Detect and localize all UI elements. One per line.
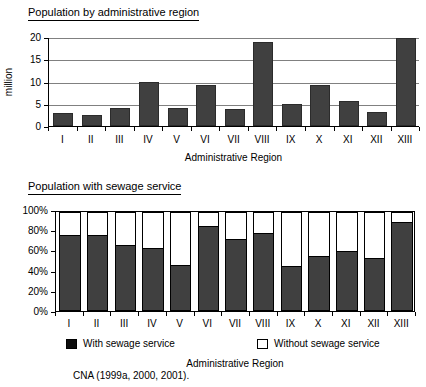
gridline bbox=[49, 60, 419, 61]
x-tick-mark bbox=[138, 312, 139, 316]
stacked-bar-region-XIII bbox=[391, 212, 413, 311]
x-tick-mark bbox=[249, 312, 250, 316]
stacked-bar-region-V bbox=[170, 212, 192, 311]
x-tick-label-XII: XII bbox=[370, 134, 382, 145]
y-tick-label: 15 bbox=[19, 55, 41, 65]
x-tick-label-VII: VII bbox=[227, 134, 239, 145]
chart-population-with-sewage: Population with sewage service 100% 80% … bbox=[0, 178, 426, 387]
bar-region-VIII bbox=[253, 42, 273, 126]
x-tick-mark bbox=[83, 312, 84, 316]
segment-with-sewage bbox=[337, 251, 357, 310]
stacked-bar-region-I bbox=[59, 212, 81, 311]
y-tick-label: 60% bbox=[8, 246, 48, 256]
bar-region-IV bbox=[139, 82, 159, 127]
x-tick-label-X: X bbox=[315, 318, 322, 329]
legend-item-without-sewage: Without sewage service bbox=[257, 338, 380, 350]
y-tick-label: 10 bbox=[19, 78, 41, 88]
x-tick-label-VI: VI bbox=[200, 134, 209, 145]
x-tick-mark bbox=[334, 127, 335, 131]
segment-with-sewage bbox=[392, 222, 412, 310]
x-tick-mark bbox=[305, 127, 306, 131]
x-tick-label-XIII: XIII bbox=[397, 134, 412, 145]
legend-label-with-sewage: With sewage service bbox=[83, 338, 175, 350]
x-tick-mark bbox=[77, 127, 78, 131]
bar-region-VI bbox=[196, 85, 216, 126]
segment-with-sewage bbox=[60, 235, 80, 310]
stacked-bar-region-VII bbox=[225, 212, 247, 311]
x-tick-label-II: II bbox=[94, 318, 100, 329]
x-tick-mark bbox=[166, 312, 167, 316]
segment-with-sewage bbox=[282, 266, 302, 310]
x-tick-label-V: V bbox=[173, 134, 180, 145]
y-axis-label-million: million bbox=[4, 62, 14, 102]
y-tick-label: 20 bbox=[19, 33, 41, 43]
x-tick-mark bbox=[332, 312, 333, 316]
x-tick-label-X: X bbox=[316, 134, 323, 145]
x-tick-mark bbox=[304, 312, 305, 316]
bar-region-VII bbox=[225, 109, 245, 126]
bar-region-XIII bbox=[396, 38, 416, 126]
x-tick-label-III: III bbox=[115, 134, 123, 145]
stacked-bar-region-II bbox=[87, 212, 109, 311]
chart-legend: With sewage service Without sewage servi… bbox=[0, 338, 426, 354]
x-tick-label-VII: VII bbox=[229, 318, 241, 329]
x-tick-mark bbox=[419, 127, 420, 131]
segment-with-sewage bbox=[143, 248, 163, 310]
bar-region-I bbox=[53, 113, 73, 126]
y-tick-label: 20% bbox=[8, 287, 48, 297]
stacked-bar-region-IX bbox=[281, 212, 303, 311]
bar-region-II bbox=[82, 115, 102, 126]
legend-label-without-sewage: Without sewage service bbox=[274, 338, 380, 350]
segment-with-sewage bbox=[254, 233, 274, 310]
bar-region-X bbox=[310, 85, 330, 126]
chart-title-population: Population by administrative region bbox=[28, 6, 199, 21]
gridline bbox=[49, 83, 419, 84]
x-tick-mark bbox=[415, 312, 416, 316]
gridline bbox=[49, 38, 419, 39]
segment-with-sewage bbox=[365, 258, 385, 310]
legend-swatch-filled-icon bbox=[66, 339, 77, 349]
bar-region-III bbox=[110, 108, 130, 126]
x-tick-label-II: II bbox=[88, 134, 94, 145]
x-tick-label-IX: IX bbox=[286, 134, 295, 145]
chart-title-sewage: Population with sewage service bbox=[28, 180, 181, 195]
bar-region-XI bbox=[339, 101, 359, 126]
x-tick-mark bbox=[391, 127, 392, 131]
x-tick-mark bbox=[276, 127, 277, 131]
x-tick-label-XII: XII bbox=[367, 318, 379, 329]
y-tick-label: 0% bbox=[8, 307, 48, 317]
x-axis-title-sewage: Administrative Region bbox=[55, 358, 415, 369]
x-tick-label-VI: VI bbox=[203, 318, 212, 329]
x-tick-mark bbox=[194, 312, 195, 316]
plot-area-population bbox=[48, 38, 419, 127]
x-tick-mark bbox=[105, 127, 106, 131]
chart-population-by-region: Population by administrative region mill… bbox=[0, 0, 426, 170]
bar-region-XII bbox=[367, 112, 387, 126]
x-tick-mark bbox=[362, 127, 363, 131]
x-tick-mark bbox=[55, 312, 56, 316]
segment-with-sewage bbox=[116, 245, 136, 310]
x-tick-mark bbox=[134, 127, 135, 131]
stacked-bar-region-XI bbox=[336, 212, 358, 311]
bar-region-V bbox=[168, 108, 188, 126]
segment-with-sewage bbox=[226, 239, 246, 310]
y-tick-label: 40% bbox=[8, 267, 48, 277]
segment-with-sewage bbox=[309, 256, 329, 310]
x-tick-label-VIII: VIII bbox=[255, 134, 270, 145]
stacked-bar-region-III bbox=[115, 212, 137, 311]
x-tick-label-IV: IV bbox=[147, 318, 156, 329]
stacked-bar-region-XII bbox=[364, 212, 386, 311]
stacked-bar-region-VI bbox=[198, 212, 220, 311]
legend-swatch-empty-icon bbox=[257, 339, 268, 349]
segment-with-sewage bbox=[171, 265, 191, 310]
x-tick-mark bbox=[387, 312, 388, 316]
x-tick-mark bbox=[221, 312, 222, 316]
x-tick-mark bbox=[191, 127, 192, 131]
y-tick-label: 0 bbox=[19, 122, 41, 132]
x-tick-mark bbox=[277, 312, 278, 316]
stacked-bar-region-IV bbox=[142, 212, 164, 311]
source-footnote: CNA (1999a, 2000, 2001). bbox=[73, 370, 189, 382]
plot-area-sewage bbox=[55, 211, 415, 312]
x-tick-label-III: III bbox=[120, 318, 128, 329]
x-axis-title-population: Administrative Region bbox=[48, 152, 419, 163]
